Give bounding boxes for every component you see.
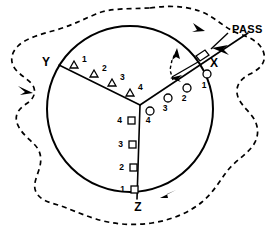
square-marker-group: 4 3 2 1 xyxy=(117,115,138,194)
square-marker-label: 1 xyxy=(120,184,125,194)
square-marker-label: 4 xyxy=(117,115,122,125)
pass-marker xyxy=(170,33,228,82)
triangle-marker xyxy=(108,79,116,86)
square-marker xyxy=(129,141,136,148)
triangle-marker xyxy=(126,89,134,96)
flow-arrow-bottom-icon xyxy=(160,190,176,198)
circle-marker-label: 2 xyxy=(182,93,187,103)
axis-label-z: Z xyxy=(134,200,141,214)
radial-arms xyxy=(59,33,248,199)
axis-label-x: X xyxy=(210,56,218,70)
figure-container: Y X Z PASS 1 2 3 4 1 2 3 4 xyxy=(0,0,275,232)
square-marker-label: 2 xyxy=(119,162,124,172)
triangle-marker-label: 2 xyxy=(102,63,107,73)
square-marker xyxy=(130,164,137,171)
circle-marker-label: 3 xyxy=(163,103,168,113)
pass-annotation-label: PASS xyxy=(232,23,263,35)
circle-marker xyxy=(164,94,172,102)
circle-marker xyxy=(146,107,154,115)
square-marker-label: 3 xyxy=(118,139,123,149)
circle-marker-label: 1 xyxy=(202,80,207,90)
arm-line-y xyxy=(59,65,140,105)
triangle-marker-label: 1 xyxy=(82,54,87,64)
triangle-marker xyxy=(90,70,98,77)
flow-arrow-left-icon xyxy=(18,86,33,95)
disc-wear-diagram: Y X Z PASS 1 2 3 4 1 2 3 4 xyxy=(0,0,275,232)
square-marker xyxy=(131,186,138,193)
normal-direction-arrow-icon xyxy=(172,48,180,60)
circle-marker-label: 4 xyxy=(146,115,151,125)
triangle-marker-label: 4 xyxy=(138,82,143,92)
triangle-marker xyxy=(70,61,78,68)
circle-marker xyxy=(183,84,191,92)
arm-line-z xyxy=(137,105,140,199)
square-marker xyxy=(128,117,135,124)
axis-label-y: Y xyxy=(42,55,50,69)
circle-marker xyxy=(203,70,211,78)
arm-line-x xyxy=(140,33,248,105)
flow-arrow-top-icon xyxy=(192,23,205,32)
triangle-marker-label: 3 xyxy=(120,72,125,82)
